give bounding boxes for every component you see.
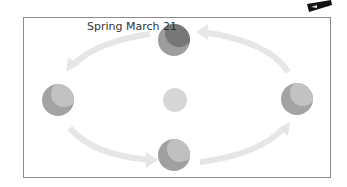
arrow-top-left <box>72 34 150 66</box>
arrow-bottom-right <box>200 128 284 162</box>
arrow-top-right <box>203 32 288 72</box>
arrowhead-bottom-left <box>146 152 158 168</box>
season-label: Spring March 21 <box>87 20 177 33</box>
sun <box>163 88 187 112</box>
planet-right <box>281 80 316 115</box>
arrow-bottom-left <box>70 128 150 160</box>
planet-left <box>42 81 77 116</box>
planet-bottom <box>158 136 193 171</box>
arrowhead-top-right <box>196 24 208 40</box>
